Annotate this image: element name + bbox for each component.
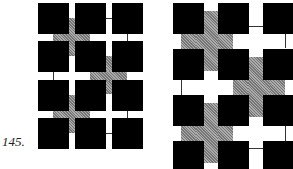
right-figure — [0, 0, 293, 169]
black-square — [218, 3, 249, 34]
black-square — [218, 49, 249, 80]
black-square — [263, 3, 293, 34]
black-square — [263, 95, 293, 126]
black-square — [218, 141, 249, 169]
connector-line — [285, 126, 286, 141]
black-square — [218, 95, 249, 126]
black-square — [173, 3, 204, 34]
black-square — [263, 49, 293, 80]
connector-line — [248, 148, 263, 149]
black-square — [173, 49, 204, 80]
connector-line — [248, 26, 263, 27]
black-square — [263, 141, 293, 169]
black-square — [173, 95, 204, 126]
connector-line — [181, 80, 182, 95]
black-square — [173, 141, 204, 169]
connector-line — [285, 34, 286, 48]
